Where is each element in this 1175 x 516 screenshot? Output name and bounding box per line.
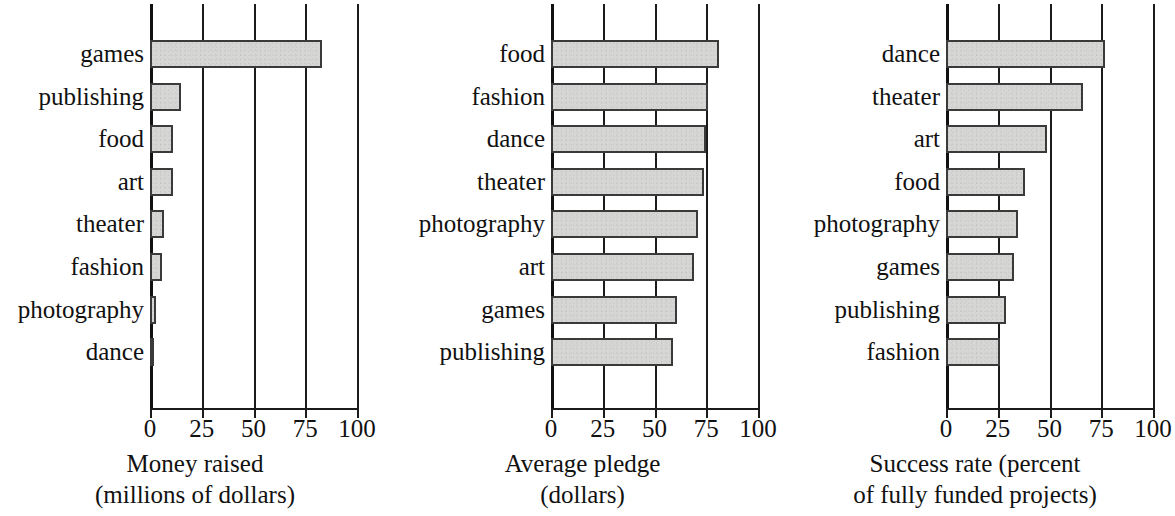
category-label-dance: dance xyxy=(285,125,551,153)
category-label-games: games xyxy=(0,40,150,68)
x-tick-label-100: 100 xyxy=(322,414,392,444)
bar-photography xyxy=(946,210,1018,238)
bar-publishing xyxy=(150,83,181,111)
bar-dance xyxy=(946,40,1105,68)
bar-food xyxy=(150,125,173,153)
category-label-photography: photography xyxy=(0,296,150,324)
x-axis-line xyxy=(946,408,1153,410)
category-label-publishing: publishing xyxy=(0,83,150,111)
category-label-food: food xyxy=(680,168,946,196)
x-axis-line xyxy=(551,408,758,410)
category-label-theater: theater xyxy=(0,210,150,238)
chart-panel-2: dancetheaterartfoodphotographygamespubli… xyxy=(775,0,1175,516)
bar-art xyxy=(150,168,173,196)
bar-dance xyxy=(150,338,154,366)
category-label-fashion: fashion xyxy=(680,338,946,366)
bar-photography xyxy=(551,210,698,238)
gridline-100 xyxy=(1153,4,1155,410)
bar-theater xyxy=(150,210,164,238)
category-label-art: art xyxy=(0,168,150,196)
bar-art xyxy=(551,253,694,281)
bar-theater xyxy=(946,83,1083,111)
category-label-games: games xyxy=(680,253,946,281)
x-axis-title-2: Success rate (percentof fully funded pro… xyxy=(775,448,1175,510)
category-label-dance: dance xyxy=(680,40,946,68)
category-label-photography: photography xyxy=(285,210,551,238)
bar-games xyxy=(946,253,1014,281)
x-axis-title-line: (dollars) xyxy=(390,479,775,510)
x-axis-title-line: (millions of dollars) xyxy=(0,479,390,510)
category-label-dance: dance xyxy=(0,338,150,366)
bar-food xyxy=(946,168,1025,196)
bar-art xyxy=(946,125,1047,153)
bar-photography xyxy=(150,296,156,324)
bar-fashion xyxy=(150,253,162,281)
bar-publishing xyxy=(551,338,673,366)
category-label-photography: photography xyxy=(680,210,946,238)
category-label-food: food xyxy=(0,125,150,153)
category-label-food: food xyxy=(285,40,551,68)
bar-games xyxy=(551,296,677,324)
category-label-games: games xyxy=(285,296,551,324)
category-label-publishing: publishing xyxy=(285,338,551,366)
x-axis-title-line: Success rate (percent xyxy=(775,448,1175,479)
x-axis-title-line: Average pledge xyxy=(390,448,775,479)
x-tick-label-100: 100 xyxy=(1118,414,1175,444)
x-axis-title-1: Average pledge(dollars) xyxy=(390,448,775,510)
x-axis-title-line: Money raised xyxy=(0,448,390,479)
bar-fashion xyxy=(946,338,1000,366)
category-label-publishing: publishing xyxy=(680,296,946,324)
category-label-theater: theater xyxy=(680,83,946,111)
category-label-fashion: fashion xyxy=(0,253,150,281)
x-axis-title-0: Money raised(millions of dollars) xyxy=(0,448,390,510)
x-axis-title-line: of fully funded projects) xyxy=(775,479,1175,510)
bar-publishing xyxy=(946,296,1006,324)
category-label-art: art xyxy=(680,125,946,153)
category-label-fashion: fashion xyxy=(285,83,551,111)
three-panel-bar-chart-figure: gamespublishingfoodarttheaterfashionphot… xyxy=(0,0,1175,516)
category-label-art: art xyxy=(285,253,551,281)
category-label-theater: theater xyxy=(285,168,551,196)
plot-area-2: dancetheaterartfoodphotographygamespubli… xyxy=(946,4,1153,410)
x-axis-line xyxy=(150,408,357,410)
